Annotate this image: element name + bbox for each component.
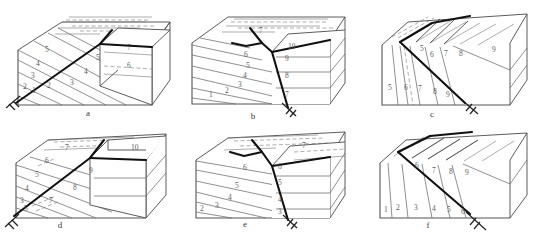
layer-label: 3 — [278, 207, 282, 216]
layer-label: 7 — [418, 84, 422, 93]
layer-label: 1 — [32, 86, 36, 95]
layer-label: 7 — [127, 43, 131, 52]
layer-label: 9 — [446, 90, 450, 99]
layer-label: 5 — [235, 181, 239, 190]
layer-label: 2 — [23, 82, 27, 91]
layer-label: 3 — [215, 201, 219, 210]
layer-label: 1 — [384, 205, 388, 214]
fault-block-diagram-figure: 1 2 3 4 5 2 3 4 5 7 6 a — [0, 0, 535, 246]
layer-label: 5 — [35, 170, 39, 179]
layer-label: 5 — [278, 178, 282, 187]
layer-label: 4 — [432, 204, 436, 213]
layer-label: 7 — [432, 166, 436, 175]
panel-label-e: e — [243, 219, 247, 229]
layer-label: 4 — [228, 193, 232, 202]
layer-label: 8 — [433, 87, 437, 96]
layer-label: 6 — [278, 162, 282, 171]
layer-label: 2 — [200, 204, 204, 213]
panel-e: 2 3 4 5 6 7 6 5 4 3 e — [196, 132, 345, 229]
layer-label: 4 — [84, 67, 88, 76]
layer-label: 6 — [244, 50, 248, 59]
panel-label-b: b — [251, 111, 256, 121]
layer-label: 8 — [449, 167, 453, 176]
layer-label: 6 — [415, 161, 419, 170]
layer-label: 3 — [31, 71, 35, 80]
layer-label: 2 — [225, 86, 229, 95]
panel-label-a: a — [86, 108, 90, 118]
layer-label: 6 — [243, 163, 247, 172]
layer-label: 7 — [444, 49, 448, 58]
panel-c: 5 6 7 8 9 5 6 7 8 9 c — [382, 12, 527, 119]
panel-label-f: f — [427, 220, 430, 230]
layer-label: 2 — [396, 203, 400, 212]
layer-label: 8 — [459, 49, 463, 58]
layer-label: 9 — [89, 166, 93, 175]
layer-label: 6 — [461, 207, 465, 216]
layer-label: 6 — [404, 83, 408, 92]
layer-label: 3 — [70, 78, 74, 87]
layer-label: 5 — [388, 83, 392, 92]
layer-label: 10 — [131, 143, 139, 152]
layer-label: 3 — [238, 80, 242, 89]
layer-label: 6 — [45, 156, 49, 165]
layer-label: 9 — [285, 54, 289, 63]
layer-label: 6 — [430, 50, 434, 59]
layer-label: 5 — [45, 45, 49, 54]
layer-label: 7 — [65, 143, 69, 152]
layer-label: 5 — [246, 61, 250, 70]
layer-label: 9 — [465, 168, 469, 177]
slip-marker-d — [5, 214, 19, 229]
layer-label: 7 — [49, 196, 53, 205]
layer-label: 5 — [420, 44, 424, 53]
slip-marker-b — [282, 103, 296, 117]
layer-label: 1 — [209, 90, 213, 99]
layer-label: 8 — [73, 183, 77, 192]
layer-label: 5 — [447, 205, 451, 214]
layer-label: 6 — [127, 61, 131, 70]
panel-b: 1 2 3 4 5 6 7 10 9 8 7 b — [192, 12, 345, 121]
layer-label: 10 — [288, 42, 296, 51]
layer-label: 5 — [24, 204, 28, 213]
layer-label: 2 — [47, 81, 51, 90]
panel-d: 3 4 5 6 5 7 8 7 9 10 d — [5, 134, 166, 230]
layer-label: 4 — [243, 71, 247, 80]
panel-f: 1 2 3 4 5 6 6 7 8 9 f — [380, 132, 527, 230]
layer-label: 7 — [259, 26, 263, 35]
panel-label-c: c — [430, 109, 434, 119]
layer-label: 7 — [302, 141, 306, 150]
layer-label: 3 — [414, 203, 418, 212]
layer-label: 5 — [96, 53, 100, 62]
panel-a: 1 2 3 4 5 2 3 4 5 7 6 a — [6, 14, 170, 118]
layer-label: 9 — [492, 45, 496, 54]
layer-label: 7 — [285, 90, 289, 99]
layer-label: 4 — [278, 195, 282, 204]
layer-label: 4 — [36, 59, 40, 68]
layer-label: 8 — [285, 71, 289, 80]
layer-label: 4 — [25, 184, 29, 193]
panel-label-d: d — [58, 220, 63, 230]
